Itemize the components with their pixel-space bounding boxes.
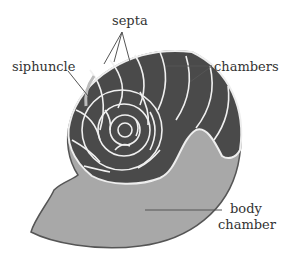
- body-chamber-label-1: body: [230, 202, 262, 216]
- siphuncle-label: siphuncle: [12, 60, 75, 74]
- chambers-label: chambers: [214, 60, 279, 74]
- septa-label: septa: [112, 14, 148, 28]
- body-chamber-label-2: chamber: [218, 218, 276, 232]
